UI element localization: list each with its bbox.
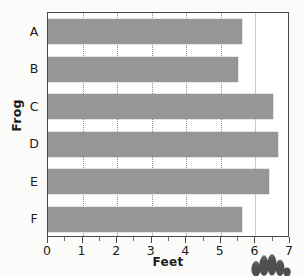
y-tick-label-e: E: [26, 173, 42, 188]
plot-area: [47, 12, 289, 237]
gridline-x-6: [255, 13, 256, 236]
gridline-x-1: [83, 13, 84, 236]
x-tick-minor-2-5: [133, 237, 134, 241]
bar-e: [48, 169, 269, 194]
bar-d: [48, 132, 278, 157]
bar-f: [48, 207, 242, 232]
x-tick-minor-5-5: [237, 237, 238, 241]
gridline-x-3: [152, 13, 153, 236]
bar-chart-figure: Frog ABCDEF 01234567 Feet: [0, 0, 303, 276]
bar-a: [48, 19, 242, 44]
y-tick-label-f: F: [26, 211, 42, 226]
x-tick-minor-1-5: [99, 237, 100, 241]
bar-b: [48, 57, 238, 82]
y-tick-label-d: D: [26, 136, 42, 151]
gridline-x-5: [221, 13, 222, 236]
x-tick-minor-6-5: [272, 237, 273, 241]
x-tick-minor-4-5: [203, 237, 204, 241]
x-tick-minor-3-5: [168, 237, 169, 241]
y-tick-label-c: C: [26, 98, 42, 113]
gridline-x-2: [117, 13, 118, 236]
frog-foot-illustration: [248, 252, 294, 276]
x-tick-minor-0-5: [64, 237, 65, 241]
bar-c: [48, 94, 273, 119]
gridline-x-4: [186, 13, 187, 236]
y-axis-title: Frog: [9, 86, 24, 146]
y-tick-label-b: B: [26, 61, 42, 76]
y-tick-label-a: A: [26, 23, 42, 38]
